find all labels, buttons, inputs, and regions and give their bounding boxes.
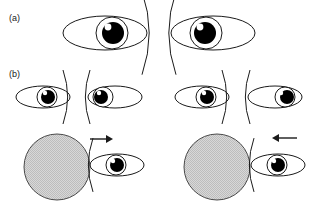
eye-b1-left-head-arc — [63, 70, 68, 124]
eye-b3-right — [249, 138, 305, 192]
eye-b2-left-head-arc — [222, 70, 227, 124]
eye-gaze-figure: (a) (b) — [0, 0, 319, 205]
disc-left-circle — [24, 134, 90, 200]
arrow-left-head — [106, 135, 113, 143]
eye-a-left — [63, 0, 149, 75]
arrow-left — [90, 135, 113, 143]
panel-label-b: (b) — [9, 69, 20, 79]
arrow-right — [272, 134, 297, 142]
disc-right-circle — [184, 134, 250, 200]
eye-b3-left-highlight — [111, 159, 115, 163]
eye-b2-right — [245, 70, 302, 124]
eye-b3-left — [88, 138, 144, 192]
eye-b2-right-highlight — [279, 91, 283, 95]
eye-b2-left — [175, 70, 229, 124]
disc-left — [24, 134, 90, 200]
eye-b3-right-highlight — [272, 159, 276, 163]
eye-b1-left-highlight — [43, 91, 47, 95]
eye-b2-left-highlight — [202, 91, 206, 95]
eye-b1-right — [85, 70, 142, 124]
eye-a-left-highlight — [105, 24, 112, 31]
eye-a-right-highlight — [197, 24, 204, 31]
figure-canvas — [0, 0, 319, 205]
disc-right — [184, 134, 250, 200]
eye-b1-right-highlight — [97, 91, 101, 95]
panel-label-a: (a) — [9, 13, 20, 23]
eye-b1-left — [16, 70, 70, 124]
drawing-layer — [16, 0, 305, 200]
eye-a-right — [169, 0, 255, 75]
arrow-right-head — [272, 134, 279, 142]
